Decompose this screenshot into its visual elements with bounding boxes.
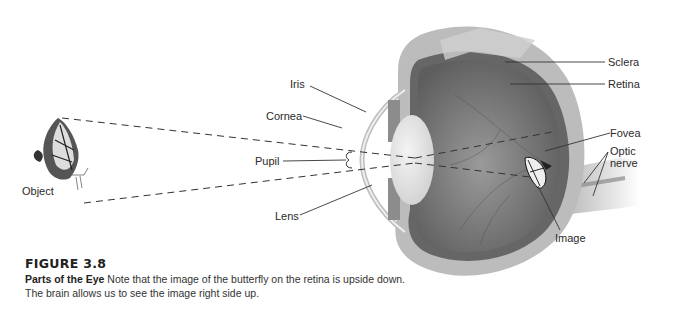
- pupil-bracket: [346, 152, 352, 168]
- sclera-label: Sclera: [608, 56, 639, 68]
- lens-label: Lens: [275, 210, 299, 222]
- butterfly-object-icon: [34, 118, 88, 190]
- figure-number: FIGURE 3.8: [25, 256, 106, 271]
- optic-nerve-label-line2: nerve: [610, 157, 638, 169]
- object-label: Object: [22, 185, 54, 197]
- fovea-label: Fovea: [610, 127, 641, 139]
- iris-label: Iris: [290, 78, 305, 90]
- pupil-label: Pupil: [255, 155, 279, 167]
- image-label: Image: [555, 232, 586, 244]
- cornea-label: Cornea: [266, 110, 302, 122]
- retina-label: Retina: [608, 78, 640, 90]
- lens-shape: [390, 115, 434, 205]
- figure-title: Parts of the Eye: [25, 273, 104, 285]
- figure-caption: Parts of the Eye Note that the image of …: [25, 272, 425, 300]
- optic-nerve-label-line1: Optic: [610, 145, 636, 157]
